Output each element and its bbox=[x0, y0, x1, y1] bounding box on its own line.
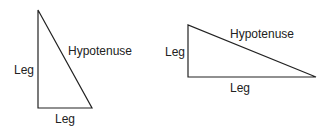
wide-hypotenuse-label: Hypotenuse bbox=[230, 28, 294, 40]
right-triangle-tall bbox=[38, 10, 92, 108]
wide-horizontal-leg-label: Leg bbox=[230, 82, 250, 94]
diagram-canvas bbox=[0, 0, 331, 130]
tall-vertical-leg-label: Leg bbox=[14, 64, 34, 76]
tall-hypotenuse-label: Hypotenuse bbox=[68, 45, 132, 57]
wide-vertical-leg-label: Leg bbox=[165, 46, 185, 58]
tall-horizontal-leg-label: Leg bbox=[55, 113, 75, 125]
